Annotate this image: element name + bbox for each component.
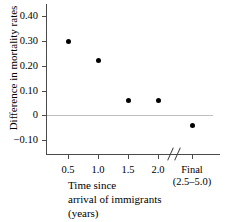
y-axis-tick: 0.30 (42, 41, 47, 42)
x-axis-tick-sublabel: (2.5–5.0) (173, 176, 212, 188)
data-point (190, 123, 195, 128)
y-axis-tick-label: 0 (33, 108, 38, 121)
x-axis-tick-label: 1.0 (91, 164, 104, 176)
x-axis-tick-label: 0.5 (61, 164, 74, 176)
x-axis-tick: Final(2.5–5.0) (192, 154, 193, 159)
x-axis-tick: 1.0 (98, 154, 99, 159)
plot-area: 0.400.300.200.100−0.10 0.51.01.52.0Final… (46, 4, 220, 155)
x-axis-title-line-2: arrival of immigrants (68, 192, 161, 206)
x-axis-break-icon (166, 147, 184, 161)
y-axis-tick: 0.20 (42, 66, 47, 67)
x-axis-title-line-1: Time since (68, 178, 161, 192)
y-axis-tick: 0 (42, 115, 47, 116)
y-axis-tick-label: 0.10 (20, 84, 38, 97)
y-axis-tick-label: 0.20 (20, 59, 38, 72)
y-axis-tick: 0.40 (42, 16, 47, 17)
x-axis-spine (46, 154, 220, 155)
data-point (96, 58, 101, 63)
y-axis-tick-label: 0.30 (20, 34, 38, 47)
x-axis-tick-label: 2.0 (151, 164, 164, 176)
y-axis-spine (46, 4, 47, 155)
x-axis-title: Time since arrival of immigrants (years) (68, 178, 161, 220)
data-point (156, 98, 161, 103)
y-axis-tick-label: 0.40 (20, 9, 38, 22)
x-axis-tick: 1.5 (128, 154, 129, 159)
x-axis-title-line-3: (years) (68, 206, 161, 220)
x-axis-tick-label: Final (181, 164, 203, 176)
zero-reference-line (47, 115, 213, 116)
y-axis-tick: −0.10 (42, 140, 47, 141)
y-axis-title: Difference in mortality rates (7, 0, 19, 143)
y-axis-tick: 0.10 (42, 91, 47, 92)
x-axis-tick: 2.0 (158, 154, 159, 159)
data-point (126, 98, 131, 103)
x-axis-tick: 0.5 (68, 154, 69, 159)
scatter-chart-figure: Difference in mortality rates 0.400.300.… (0, 0, 230, 222)
data-point (66, 39, 71, 44)
y-axis-tick-label: −0.10 (14, 133, 38, 146)
x-axis-tick-label: 1.5 (121, 164, 134, 176)
